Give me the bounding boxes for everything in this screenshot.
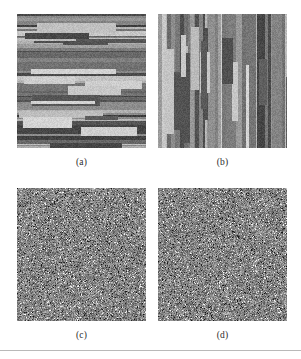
panel-c-image bbox=[17, 188, 146, 321]
figure-panel-grid: (a) (b) (c) (d) bbox=[0, 0, 301, 340]
panel-b-caption: (b) bbox=[158, 158, 287, 168]
panel-d-image bbox=[158, 188, 287, 321]
panel-a-image bbox=[17, 14, 146, 148]
panel-a-caption: (a) bbox=[17, 158, 146, 168]
panel-c-caption: (c) bbox=[17, 331, 146, 341]
panel-b-image bbox=[158, 14, 287, 148]
panel-d-caption: (d) bbox=[158, 331, 287, 341]
footer-divider bbox=[0, 350, 301, 351]
